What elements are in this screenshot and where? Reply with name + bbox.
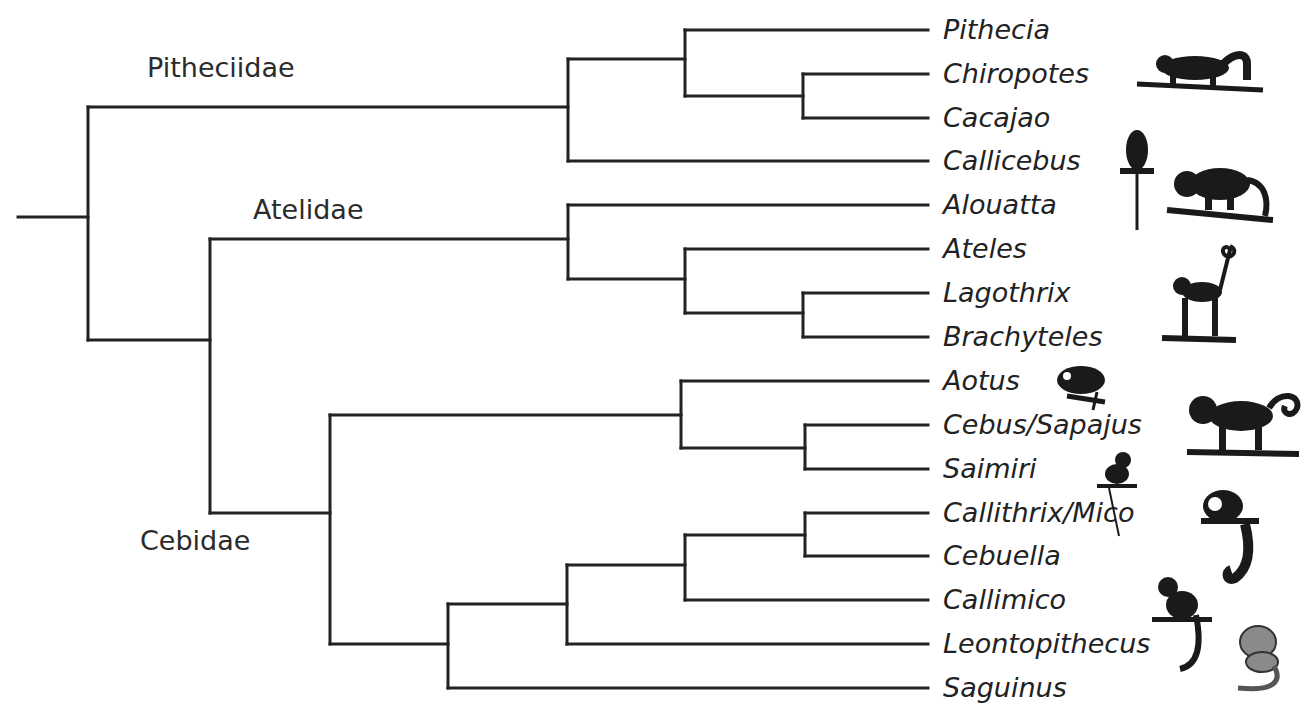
callithrix-monkey-icon <box>1195 488 1265 588</box>
taxon-label: Cebus/Sapajus <box>943 410 1142 440</box>
taxon-label: Cebuella <box>943 541 1061 571</box>
saimiri-monkey-icon <box>1095 450 1140 538</box>
taxon-label: Pithecia <box>943 15 1050 45</box>
alouatta-monkey-icon <box>1165 162 1277 224</box>
taxon-label: Callicebus <box>943 146 1081 176</box>
taxon-label: Lagothrix <box>943 278 1071 308</box>
pithecia-monkey-icon <box>1135 50 1265 95</box>
callimico-monkey-icon <box>1150 575 1215 687</box>
taxon-label: Saimiri <box>943 454 1037 484</box>
taxon-label: Ateles <box>943 234 1027 264</box>
family-label-cebidae: Cebidae <box>140 525 250 556</box>
taxon-label: Alouatta <box>943 190 1057 220</box>
taxon-label: Saguinus <box>943 673 1067 703</box>
cebus-monkey-icon <box>1183 388 1303 460</box>
aotus-monkey-icon <box>1053 362 1111 412</box>
leontopithecus-monkey-icon <box>1228 622 1290 697</box>
taxon-label: Chiropotes <box>943 59 1089 89</box>
tree-branches <box>0 0 1305 719</box>
taxon-label: Callimico <box>943 585 1066 615</box>
callicebus-monkey-icon <box>1117 128 1157 233</box>
ateles-monkey-icon <box>1160 240 1240 350</box>
family-label-pitheciidae: Pitheciidae <box>147 52 295 83</box>
taxon-label: Cacajao <box>943 103 1050 133</box>
taxon-label: Brachyteles <box>943 322 1102 352</box>
family-label-atelidae: Atelidae <box>253 194 364 225</box>
phylogenetic-tree-diagram: Pitheciidae Atelidae Cebidae Pithecia Ch… <box>0 0 1305 719</box>
taxon-label: Leontopithecus <box>943 629 1150 659</box>
taxon-label: Aotus <box>943 366 1020 396</box>
